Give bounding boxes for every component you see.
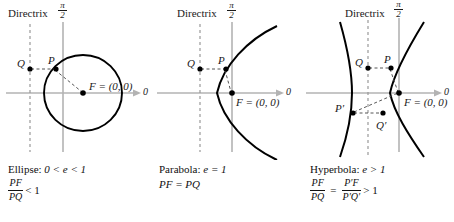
panel-hyperbola: Directrix π 2 Q P P′ Q′ F = (0, 0) 0 Hyp… bbox=[302, 0, 453, 222]
ratio2-numerator: P′F bbox=[343, 178, 359, 189]
ratio2-denominator: P′Q′ bbox=[342, 192, 362, 203]
parabola-svg bbox=[151, 0, 302, 160]
parabola-caption: Parabola: e = 1 PF = PQ bbox=[151, 163, 302, 190]
caption-line-1: Hyperbola: e > 1 bbox=[310, 163, 453, 175]
focus-label: F = (0, 0) bbox=[89, 81, 132, 92]
point-F-dot bbox=[229, 90, 235, 96]
point-Q-dot bbox=[27, 66, 32, 71]
ratio-relation: > 1 bbox=[363, 184, 377, 196]
point-label-Q: Q bbox=[355, 57, 363, 68]
hyperbola-left-branch bbox=[340, 22, 352, 157]
pi-numerator: π bbox=[227, 1, 236, 10]
conic-name: Parabola: bbox=[159, 163, 201, 175]
ratio-fraction: PF PQ bbox=[8, 178, 23, 203]
conic-sections-figure: Directrix π 2 Q P F = (0, 0) 0 Ellipse: … bbox=[0, 0, 454, 222]
equals-sign: = bbox=[330, 184, 336, 196]
focus-label: F = (0, 0) bbox=[236, 97, 279, 108]
pi-numerator: π bbox=[58, 1, 67, 10]
point-label-Pprime: P′ bbox=[335, 103, 344, 114]
point-label-Q: Q bbox=[17, 58, 25, 69]
directrix-label: Directrix bbox=[8, 8, 48, 19]
ratio-fraction-2: P′F P′Q′ bbox=[342, 178, 362, 203]
caption-line-2: PF PQ = P′F P′Q′ > 1 bbox=[310, 178, 453, 203]
caption-line-1: Parabola: e = 1 bbox=[159, 163, 302, 175]
pi-denominator: 2 bbox=[58, 11, 67, 20]
horizontal-axis-arrow bbox=[133, 90, 141, 97]
pi-numerator: π bbox=[394, 0, 403, 9]
zero-label: 0 bbox=[444, 87, 449, 97]
ratio1-denominator: PQ bbox=[310, 192, 325, 203]
polar-axis-label: π 2 bbox=[58, 1, 67, 21]
directrix-label: Directrix bbox=[345, 8, 385, 19]
ratio-numerator: PF bbox=[9, 178, 23, 189]
point-P-dot bbox=[223, 66, 228, 71]
segment-PF bbox=[225, 70, 231, 92]
pi-denominator: 2 bbox=[227, 11, 236, 20]
parabola-plot: Directrix π 2 Q P F = (0, 0) 0 bbox=[151, 0, 302, 160]
point-label-Q: Q bbox=[187, 58, 195, 69]
distance-equation: PF = PQ bbox=[159, 178, 200, 190]
eccentricity-condition: 0 < e < 1 bbox=[44, 163, 86, 175]
caption-line-1: Ellipse: 0 < e < 1 bbox=[8, 163, 151, 175]
point-Q-dot bbox=[197, 66, 202, 71]
point-P-dot bbox=[53, 66, 58, 71]
focus-label: F = (0, 0) bbox=[404, 97, 447, 108]
hyperbola-svg bbox=[302, 0, 454, 160]
ratio-relation: < 1 bbox=[25, 184, 39, 196]
point-Q-dot bbox=[365, 65, 370, 70]
ratio1-numerator: PF bbox=[311, 178, 325, 189]
point-F-dot bbox=[80, 90, 86, 96]
point-F-dot bbox=[396, 90, 402, 96]
panel-parabola: Directrix π 2 Q P F = (0, 0) 0 Parabola:… bbox=[151, 0, 302, 222]
point-Qprime-dot bbox=[380, 110, 385, 115]
polar-axis-label: π 2 bbox=[394, 0, 403, 20]
zero-label: 0 bbox=[143, 87, 148, 97]
caption-line-2: PF = PQ bbox=[159, 178, 302, 190]
point-label-P: P bbox=[384, 54, 391, 65]
caption-line-2: PF PQ < 1 bbox=[8, 178, 151, 203]
conic-name: Hyperbola: bbox=[310, 163, 359, 175]
ratio-denominator: PQ bbox=[8, 192, 23, 203]
conic-name: Ellipse: bbox=[8, 163, 42, 175]
point-Pprime-dot bbox=[350, 110, 355, 115]
point-label-P: P bbox=[48, 55, 55, 66]
eccentricity-condition: e = 1 bbox=[203, 163, 226, 175]
zero-label: 0 bbox=[286, 87, 291, 97]
hyperbola-plot: Directrix π 2 Q P P′ Q′ F = (0, 0) 0 bbox=[302, 0, 453, 160]
ellipse-plot: Directrix π 2 Q P F = (0, 0) 0 bbox=[0, 0, 151, 160]
hyperbola-right-branch bbox=[390, 22, 424, 157]
panel-ellipse: Directrix π 2 Q P F = (0, 0) 0 Ellipse: … bbox=[0, 0, 151, 222]
directrix-label: Directrix bbox=[177, 8, 217, 19]
hyperbola-caption: Hyperbola: e > 1 PF PQ = P′F P′Q′ > 1 bbox=[302, 163, 453, 203]
point-label-P: P bbox=[218, 55, 225, 66]
point-label-Qprime: Q′ bbox=[376, 120, 386, 131]
point-P-dot bbox=[388, 65, 393, 70]
eccentricity-condition: e > 1 bbox=[362, 163, 385, 175]
segment-PprimeF bbox=[354, 93, 398, 112]
pi-denominator: 2 bbox=[394, 10, 403, 19]
polar-axis-label: π 2 bbox=[227, 1, 236, 21]
segment-PF bbox=[55, 70, 82, 92]
ellipse-caption: Ellipse: 0 < e < 1 PF PQ < 1 bbox=[0, 163, 151, 203]
ratio-fraction-1: PF PQ bbox=[310, 178, 325, 203]
